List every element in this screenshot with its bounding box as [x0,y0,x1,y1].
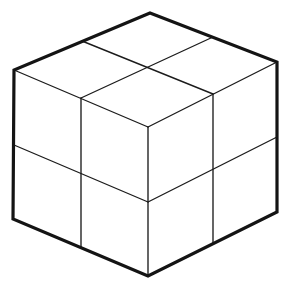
cube-diagram [0,0,289,289]
figure-canvas [0,0,289,289]
